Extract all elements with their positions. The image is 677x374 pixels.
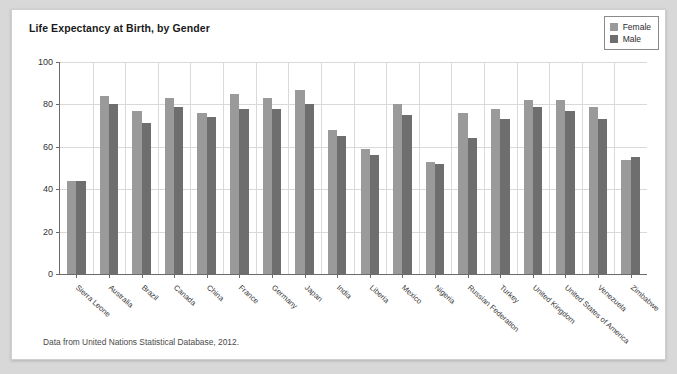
bar-group: France: [223, 62, 256, 274]
x-axis-tick: [174, 274, 175, 278]
bar-male[interactable]: [109, 104, 118, 274]
bar-male[interactable]: [533, 107, 542, 274]
x-axis-tick-label: United States of America: [563, 283, 631, 346]
chart-legend: FemaleMale: [604, 16, 659, 50]
bar-male[interactable]: [631, 157, 640, 274]
bar-male[interactable]: [402, 115, 411, 274]
bar-male[interactable]: [142, 123, 151, 274]
bar-group: Venezuela: [582, 62, 615, 274]
bar-female[interactable]: [197, 113, 206, 274]
bar-female[interactable]: [132, 111, 141, 274]
bar-group: Nigeria: [419, 62, 452, 274]
bar-female[interactable]: [295, 90, 304, 274]
x-axis-tick-label: Mexico: [400, 283, 424, 306]
bar-group: United Kingdom: [517, 62, 550, 274]
bar-female[interactable]: [393, 104, 402, 274]
bar-male[interactable]: [174, 107, 183, 274]
bar-group: Liberia: [354, 62, 387, 274]
bar-group: Brazil: [125, 62, 158, 274]
bar-female[interactable]: [361, 149, 370, 274]
bar-group: India: [321, 62, 354, 274]
x-axis-tick: [109, 274, 110, 278]
legend-item-male[interactable]: Male: [610, 33, 651, 45]
bar-group: Canada: [158, 62, 191, 274]
x-axis-tick-label: Liberia: [368, 283, 391, 305]
y-axis-tick-label: 40: [43, 184, 53, 194]
x-axis-tick: [272, 274, 273, 278]
bar-female[interactable]: [100, 96, 109, 274]
bar-female[interactable]: [589, 107, 598, 274]
bar-group: Germany: [256, 62, 289, 274]
bar-male[interactable]: [272, 109, 281, 274]
x-axis-tick-label: Venezuela: [596, 283, 628, 313]
bar-female[interactable]: [67, 181, 76, 274]
bar-male[interactable]: [468, 138, 477, 274]
legend-label: Male: [623, 34, 641, 44]
x-axis-tick: [533, 274, 534, 278]
y-axis-tick-label: 80: [43, 99, 53, 109]
bar-group: Zimbabwe: [614, 62, 647, 274]
bar-male[interactable]: [239, 109, 248, 274]
bar-group: Turkey: [484, 62, 517, 274]
bar-male[interactable]: [207, 117, 216, 274]
bar-female[interactable]: [621, 160, 630, 274]
bar-male[interactable]: [370, 155, 379, 274]
bar-female[interactable]: [491, 109, 500, 274]
x-axis-tick-label: Zimbabwe: [629, 283, 661, 313]
bar-group: Japan: [288, 62, 321, 274]
x-axis-tick: [142, 274, 143, 278]
y-axis-tick: [56, 274, 60, 275]
x-axis-tick-label: Australia: [107, 283, 135, 309]
legend-item-female[interactable]: Female: [610, 21, 651, 33]
x-axis-tick: [402, 274, 403, 278]
chart-card: Life Expectancy at Birth, by Gender 0204…: [11, 9, 666, 360]
legend-label: Female: [623, 22, 651, 32]
y-axis-tick-label: 100: [38, 57, 53, 67]
bar-female[interactable]: [426, 162, 435, 274]
bar-group: Russian Federation: [451, 62, 484, 274]
x-axis-tick: [370, 274, 371, 278]
bar-female[interactable]: [230, 94, 239, 274]
bar-group: China: [190, 62, 223, 274]
y-axis-tick-label: 20: [43, 227, 53, 237]
bar-group: United States of America: [549, 62, 582, 274]
bar-group: Mexico: [386, 62, 419, 274]
x-axis-tick: [565, 274, 566, 278]
bar-female[interactable]: [263, 98, 272, 274]
x-axis-tick: [598, 274, 599, 278]
bar-female[interactable]: [328, 130, 337, 274]
x-axis-tick: [337, 274, 338, 278]
x-axis-tick-label: China: [205, 283, 226, 303]
bar-male[interactable]: [305, 104, 314, 274]
bar-male[interactable]: [565, 111, 574, 274]
x-axis-tick: [76, 274, 77, 278]
bar-female[interactable]: [556, 100, 565, 274]
x-axis-tick: [207, 274, 208, 278]
bar-group: Sierra Leone: [60, 62, 93, 274]
x-axis-tick-label: Japan: [303, 283, 324, 304]
x-axis-tick-label: Brazil: [139, 283, 159, 302]
x-axis-tick-label: Canada: [172, 283, 198, 307]
x-axis-tick: [305, 274, 306, 278]
chart-title: Life Expectancy at Birth, by Gender: [29, 22, 210, 34]
bar-female[interactable]: [165, 98, 174, 274]
x-axis-tick-label: Germany: [270, 283, 299, 311]
x-axis-tick: [631, 274, 632, 278]
bar-male[interactable]: [337, 136, 346, 274]
x-axis-tick: [468, 274, 469, 278]
bar-female[interactable]: [524, 100, 533, 274]
x-axis-tick-label: France: [237, 283, 261, 306]
bar-male[interactable]: [500, 119, 509, 274]
legend-swatch-icon: [610, 23, 618, 31]
x-axis-tick-label: Turkey: [498, 283, 521, 305]
bar-male[interactable]: [598, 119, 607, 274]
x-axis-tick-label: Nigeria: [433, 283, 457, 306]
source-note: Data from United Nations Statistical Dat…: [43, 337, 239, 347]
legend-swatch-icon: [610, 35, 618, 43]
bar-male[interactable]: [435, 164, 444, 274]
bar-female[interactable]: [458, 113, 467, 274]
y-axis-tick-label: 60: [43, 142, 53, 152]
x-axis-tick-label: India: [335, 283, 353, 301]
x-axis-tick: [435, 274, 436, 278]
bar-male[interactable]: [76, 181, 85, 274]
